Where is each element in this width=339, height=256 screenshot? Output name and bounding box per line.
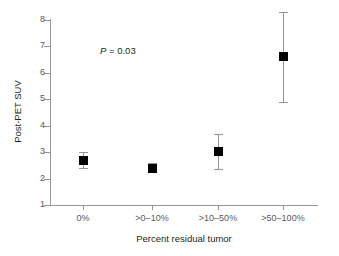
x-axis-tick [83, 205, 84, 210]
chart-figure: 12345678 0%>0–10%>10–50%>50–100% P = 0.0… [0, 0, 339, 256]
p-value-annotation: P = 0.03 [100, 45, 136, 56]
error-bar-cap-upper [279, 12, 288, 13]
x-axis-tick [152, 205, 153, 210]
data-point-marker [279, 52, 288, 61]
x-axis-tick-label: >0–10% [117, 213, 187, 224]
error-bar-cap-upper [79, 152, 88, 153]
y-axis-tick-label: 6 [19, 68, 45, 77]
error-bar-cap-lower [79, 168, 88, 169]
y-axis-tick-label: 5 [19, 94, 45, 103]
error-bar-cap-lower [279, 102, 288, 103]
error-bar-cap-upper [214, 134, 223, 135]
x-axis-tick-label: 0% [48, 213, 118, 224]
y-axis-tick-label: 7 [19, 41, 45, 50]
y-axis-tick-label: 2 [19, 174, 45, 183]
y-axis-tick-label: 3 [19, 147, 45, 156]
y-axis-tick-label: 8 [19, 15, 45, 24]
y-axis-line [50, 19, 51, 206]
x-axis-tick-label: >50–100% [248, 213, 318, 224]
x-axis-title: Percent residual tumor [50, 233, 318, 244]
data-point-marker [79, 156, 88, 165]
data-point-marker [214, 147, 223, 156]
data-point-marker [148, 164, 157, 173]
y-axis-tick-label: 4 [19, 121, 45, 130]
x-axis-tick-label: >10–50% [183, 213, 253, 224]
y-axis-title: Post-PET SUV [12, 57, 23, 167]
x-axis-line [50, 205, 318, 206]
p-value-number: = 0.03 [106, 45, 135, 56]
error-bar-cap-lower [214, 169, 223, 170]
x-axis-tick [283, 205, 284, 210]
plot-area: 12345678 0%>0–10%>10–50%>50–100% P = 0.0… [0, 0, 339, 256]
x-axis-tick [218, 205, 219, 210]
y-axis-tick-label: 1 [19, 200, 45, 209]
